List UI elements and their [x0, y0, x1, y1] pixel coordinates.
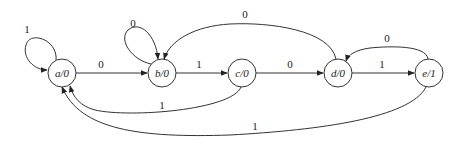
edge-d-e: 1 [352, 58, 414, 73]
state-label-a: a/0 [55, 67, 70, 79]
edge-d-b: 0 [164, 8, 336, 59]
edge-label-b-b: 0 [130, 17, 136, 29]
state-label-b: b/0 [155, 67, 170, 79]
state-c: c/0 [228, 59, 256, 87]
state-a: a/0 [48, 59, 76, 87]
state-b: b/0 [148, 59, 176, 87]
edge-e-a: 1 [62, 87, 426, 136]
state-d: d/0 [324, 59, 352, 87]
edge-label-e-a: 1 [252, 120, 258, 132]
state-e: e/1 [415, 59, 443, 87]
edge-label-a-a: 1 [24, 23, 30, 35]
state-label-c: c/0 [235, 67, 249, 79]
edge-label-b-c: 1 [196, 58, 202, 70]
edge-c-d: 0 [256, 58, 323, 73]
edge-label-e-d: 0 [384, 32, 390, 44]
edge-a-b: 0 [76, 58, 147, 73]
state-label-d: d/0 [331, 67, 346, 79]
edge-label-c-d: 0 [287, 58, 293, 70]
state-diagram: 1 0 0 1 0 0 1 0 1 1 [0, 0, 465, 145]
edge-label-d-e: 1 [379, 58, 385, 70]
edge-e-d: 0 [346, 32, 428, 61]
edge-b-b: 0 [125, 17, 158, 64]
edge-label-c-a: 1 [159, 99, 165, 111]
state-label-e: e/1 [422, 67, 435, 79]
edge-b-c: 1 [176, 58, 227, 73]
edge-c-a: 1 [70, 86, 241, 113]
edge-label-a-b: 0 [98, 58, 104, 70]
edge-a-a: 1 [24, 23, 56, 70]
edge-label-d-b: 0 [242, 8, 248, 20]
